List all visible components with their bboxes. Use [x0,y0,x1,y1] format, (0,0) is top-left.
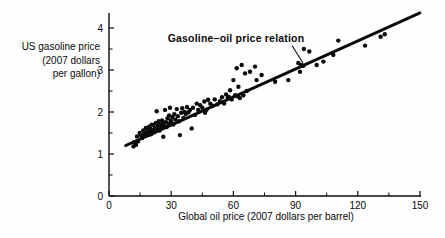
y-tick-label: 0 [97,191,103,202]
data-point [298,70,302,74]
data-point [175,107,179,111]
data-point [155,109,159,113]
data-point [336,38,340,42]
data-point [315,63,319,67]
x-tick-label: 150 [412,200,429,211]
data-point [206,98,210,102]
data-point [253,64,257,68]
data-point [363,43,367,47]
y-axis-title-line-1: US gasoline price [22,41,101,52]
data-point [235,66,239,70]
data-point [191,106,195,110]
data-point [236,85,240,89]
x-axis-title: Global oil price (2007 dollars per barre… [178,211,354,222]
data-point [286,78,290,82]
data-point [240,63,244,67]
scatter-points [131,32,387,148]
data-point [248,70,252,74]
data-point [190,126,194,130]
data-point [161,135,165,139]
x-tick-label: 120 [349,200,366,211]
x-tick-label: 30 [166,200,178,211]
y-tick-label: 1 [97,149,103,160]
axis-tick-labels: 030609012015001234 [97,23,428,212]
x-tick-label: 0 [106,200,112,211]
data-point [254,78,258,82]
data-point [383,32,387,36]
x-tick-label: 90 [290,200,302,211]
data-point [259,73,263,77]
data-point [302,47,306,51]
data-point [378,35,382,39]
data-point [176,114,180,118]
data-point [228,88,232,92]
data-point [243,71,247,75]
scatter-chart: 030609012015001234 US gasoline price (20… [0,0,445,238]
figure: 030609012015001234 US gasoline price (20… [0,0,445,238]
annotation-label: Gasoline–oil price relation [168,32,305,44]
data-point [220,95,224,99]
data-point [168,106,172,110]
data-point [238,96,242,100]
x-tick-label: 60 [228,200,240,211]
data-point [163,108,167,112]
y-axis-title-line-3: per gallon) [53,68,100,79]
data-point [321,59,325,63]
data-point [178,133,182,137]
y-tick-label: 4 [97,23,103,34]
y-tick-label: 2 [97,107,103,118]
annotation-pointer-line [292,46,303,64]
data-point [307,49,311,53]
y-axis-title-line-2: (2007 dollars [42,55,100,66]
data-point [180,106,184,110]
data-point [213,97,217,101]
data-point [231,78,235,82]
